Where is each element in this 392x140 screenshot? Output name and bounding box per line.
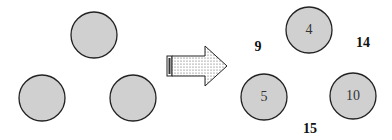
empty-circle-bottom-left — [19, 75, 65, 121]
diagram-canvas — [0, 0, 392, 140]
empty-circle-top — [71, 12, 117, 58]
sum-label-right-edge: 14 — [356, 35, 370, 51]
circle-value-bottom-right: 10 — [346, 88, 360, 104]
empty-circle-bottom-right — [110, 75, 156, 121]
sum-label-left-edge: 9 — [255, 39, 262, 55]
right-arrow-icon — [167, 46, 227, 86]
circle-value-top: 4 — [306, 22, 313, 38]
circle-value-bottom-left: 5 — [261, 89, 268, 105]
left-triangle-group — [19, 12, 156, 121]
sum-label-bottom-edge: 15 — [303, 121, 317, 137]
